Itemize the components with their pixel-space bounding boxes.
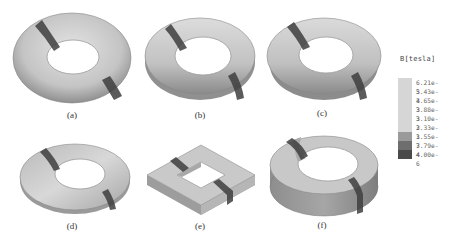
panel-e-square-frame (145, 135, 257, 217)
caption-e: (e) (188, 221, 212, 231)
legend-swatch-2 (398, 96, 412, 105)
torus-a-render (10, 8, 135, 108)
caption-a: (a) (60, 110, 84, 120)
square-frame-e-render (145, 135, 257, 217)
legend-swatch-6 (398, 132, 412, 141)
caption-c: (c) (310, 108, 334, 118)
caption-d: (d) (60, 221, 84, 231)
washer-d-render (18, 137, 133, 217)
legend-swatch-7 (398, 141, 412, 150)
legend-swatch-8 (398, 150, 412, 159)
panel-d-washer (18, 137, 133, 217)
legend-title: B[tesla] (400, 55, 435, 63)
caption-b: (b) (188, 110, 212, 120)
panel-b-torus (143, 10, 258, 105)
panel-f-ring (268, 132, 380, 218)
caption-f: (f) (310, 220, 334, 230)
legend-swatch-0 (398, 78, 412, 87)
legend-swatch-5 (398, 123, 412, 132)
torus-c-render (266, 10, 384, 105)
panel-c-torus (266, 10, 384, 105)
legend-swatch-4 (398, 114, 412, 123)
legend-swatch-1 (398, 87, 412, 96)
legend-swatch-3 (398, 105, 412, 114)
torus-b-render (143, 10, 258, 105)
ring-f-render (268, 132, 380, 218)
legend-label-8: 4.00e-6 (416, 150, 438, 168)
panel-a-torus (10, 8, 135, 108)
